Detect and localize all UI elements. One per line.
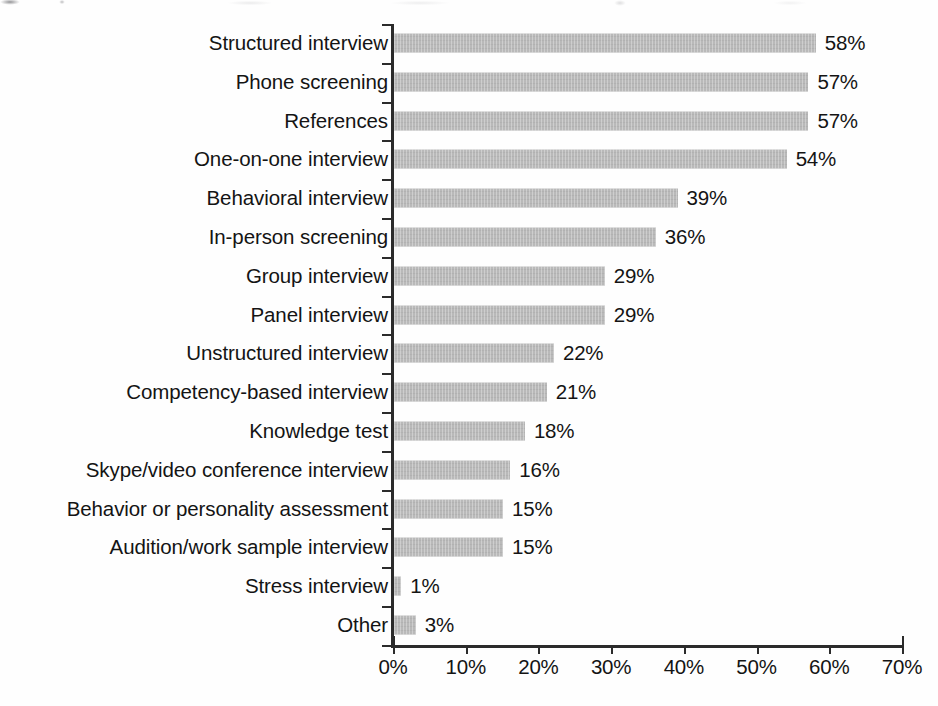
bar bbox=[394, 111, 808, 130]
category-label: Behavior or personality assessment bbox=[67, 497, 388, 521]
category-label: Panel interview bbox=[250, 303, 388, 327]
bar bbox=[394, 499, 503, 518]
bar-row: Unstructured interview22% bbox=[0, 334, 938, 372]
x-axis-tick bbox=[757, 645, 759, 654]
category-label: Skype/video conference interview bbox=[86, 458, 388, 482]
bar bbox=[394, 616, 416, 635]
bar-value-label: 15% bbox=[512, 497, 552, 521]
category-label: Other bbox=[337, 613, 388, 637]
x-axis-tick-label: 40% bbox=[664, 655, 704, 679]
bar bbox=[394, 72, 808, 91]
bar-value-label: 22% bbox=[563, 341, 603, 365]
bar-row: References57% bbox=[0, 102, 938, 140]
bar-chart-plot-area: Structured interview58%Phone screening57… bbox=[0, 0, 938, 706]
category-label: Group interview bbox=[246, 264, 388, 288]
x-axis-tick bbox=[902, 645, 904, 654]
bar-row: One-on-one interview54% bbox=[0, 140, 938, 178]
bar-row: Behavioral interview39% bbox=[0, 179, 938, 217]
category-label: Competency-based interview bbox=[126, 380, 388, 404]
bar-value-label: 54% bbox=[796, 147, 836, 171]
bar-row: Group interview29% bbox=[0, 257, 938, 295]
category-label: Unstructured interview bbox=[186, 341, 388, 365]
bar-value-label: 57% bbox=[817, 70, 857, 94]
x-axis-tick bbox=[393, 645, 395, 654]
bar-value-label: 36% bbox=[665, 225, 705, 249]
bar-row: Behavior or personality assessment15% bbox=[0, 490, 938, 528]
category-label: Behavioral interview bbox=[207, 186, 388, 210]
bar bbox=[394, 189, 678, 208]
bar-row: Panel interview29% bbox=[0, 296, 938, 334]
bar-value-label: 57% bbox=[817, 109, 857, 133]
y-axis-tick bbox=[382, 645, 391, 647]
bar bbox=[394, 150, 787, 169]
bar-row: Stress interview1% bbox=[0, 567, 938, 605]
bar-row: In-person screening36% bbox=[0, 218, 938, 256]
x-axis-tick-label: 60% bbox=[809, 655, 849, 679]
category-label: Structured interview bbox=[209, 31, 388, 55]
bar bbox=[394, 344, 554, 363]
bar-value-label: 29% bbox=[614, 303, 654, 327]
x-axis-tick-label: 0% bbox=[378, 655, 407, 679]
bar bbox=[394, 228, 656, 247]
x-axis-tick-label: 30% bbox=[591, 655, 631, 679]
bar-row: Phone screening57% bbox=[0, 63, 938, 101]
x-axis-tick-label: 20% bbox=[518, 655, 558, 679]
bar bbox=[394, 305, 605, 324]
bar-value-label: 29% bbox=[614, 264, 654, 288]
bar bbox=[394, 460, 510, 479]
x-axis-tick-label: 70% bbox=[882, 655, 922, 679]
bar-value-label: 3% bbox=[425, 613, 454, 637]
bar bbox=[394, 422, 525, 441]
category-label: Knowledge test bbox=[249, 419, 388, 443]
bar-row: Audition/work sample interview15% bbox=[0, 528, 938, 566]
category-label: In-person screening bbox=[209, 225, 388, 249]
x-axis-tick bbox=[829, 645, 831, 654]
category-label: Phone screening bbox=[236, 70, 388, 94]
category-label: Audition/work sample interview bbox=[110, 535, 388, 559]
x-axis-tick-label: 50% bbox=[736, 655, 776, 679]
bar-value-label: 18% bbox=[534, 419, 574, 443]
bar-row: Knowledge test18% bbox=[0, 412, 938, 450]
category-label: Stress interview bbox=[245, 574, 388, 598]
bar bbox=[394, 266, 605, 285]
x-axis-tick bbox=[466, 645, 468, 654]
bar-value-label: 1% bbox=[410, 574, 439, 598]
bar bbox=[394, 34, 816, 53]
bar-row: Skype/video conference interview16% bbox=[0, 451, 938, 489]
x-axis-tick bbox=[538, 645, 540, 654]
x-axis-tick bbox=[611, 645, 613, 654]
category-label: One-on-one interview bbox=[194, 147, 388, 171]
bar bbox=[394, 577, 401, 596]
x-axis-tick-label: 10% bbox=[445, 655, 485, 679]
x-axis-tick bbox=[684, 645, 686, 654]
bar bbox=[394, 538, 503, 557]
bar-value-label: 15% bbox=[512, 535, 552, 559]
chart-page: Structured interview58%Phone screening57… bbox=[0, 0, 938, 706]
bar-value-label: 39% bbox=[687, 186, 727, 210]
bar-row: Other3% bbox=[0, 606, 938, 644]
bar-row: Competency-based interview21% bbox=[0, 373, 938, 411]
bar bbox=[394, 383, 547, 402]
bar-value-label: 58% bbox=[825, 31, 865, 55]
category-label: References bbox=[284, 109, 388, 133]
bar-value-label: 21% bbox=[556, 380, 596, 404]
bar-value-label: 16% bbox=[519, 458, 559, 482]
bar-row: Structured interview58% bbox=[0, 24, 938, 62]
